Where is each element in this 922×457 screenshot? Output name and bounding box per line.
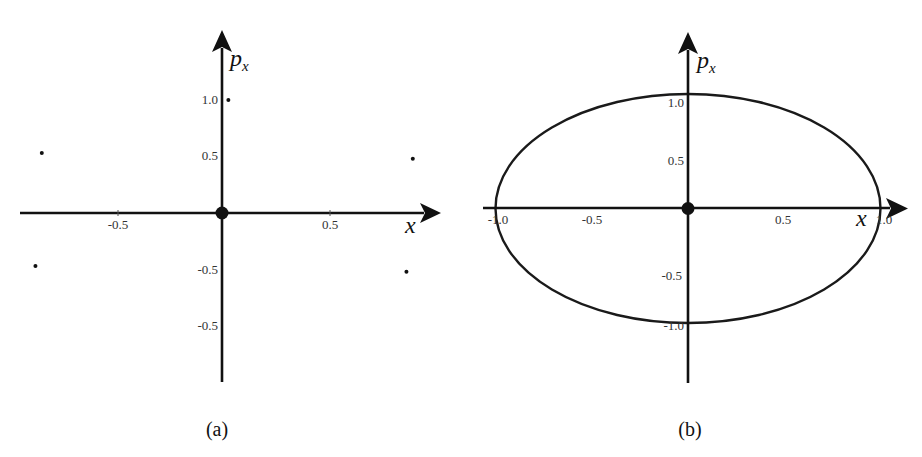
x-tick-label: -1.0 [488,212,509,227]
x-tick-label: -0.5 [582,212,603,227]
y-tick-label: -0.5 [197,318,218,333]
fixed-point-marker [682,202,695,215]
y-tick-label: 1.0 [668,95,684,110]
x-axis-label: x [404,212,416,238]
panel-a: -0.5 0.5 1.0 0.5 -0.5 -0.5 px x (a) [20,30,441,441]
data-point [411,157,415,161]
panel-b: -1.0 -0.5 0.5 1.0 1.0 0.5 -0.5 -1.0 px x… [483,32,908,441]
data-point [404,270,408,274]
y-tick-label: 1.0 [202,92,218,107]
y-tick-label: 0.5 [668,153,684,168]
y-tick-label: -0.5 [661,268,682,283]
y-tick-label: 0.5 [202,148,218,163]
data-point [226,98,230,102]
scatter-points [33,98,414,274]
x-tick-label: 1.0 [876,212,892,227]
data-point [33,264,37,268]
figure: -0.5 0.5 1.0 0.5 -0.5 -0.5 px x (a) -1.0… [0,0,922,457]
panel-caption: (a) [206,418,228,441]
x-tick-label: -0.5 [108,217,129,232]
data-point [40,151,44,155]
x-axis-label: x [855,205,867,231]
fixed-point-marker [216,207,229,220]
y-tick-label: -1.0 [663,318,684,333]
panel-caption: (b) [678,418,701,441]
x-tick-label: 0.5 [775,212,791,227]
x-tick-label: 0.5 [322,217,338,232]
y-axis-label: px [228,45,249,74]
fixed-points [682,202,695,215]
y-axis-label: px [695,47,716,76]
y-tick-label: -0.5 [197,262,218,277]
